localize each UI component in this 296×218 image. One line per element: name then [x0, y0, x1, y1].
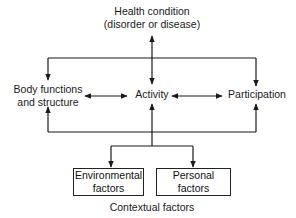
activity-node: Activity — [128, 88, 176, 101]
body-functions-line1: Body functions — [6, 83, 90, 96]
body-functions-line2: and structure — [6, 96, 90, 109]
environmental-factors-box: Environmental factors — [73, 168, 144, 196]
body-functions-node: Body functions and structure — [6, 83, 90, 109]
personal-factors-box: Personal factors — [156, 168, 231, 196]
contextual-factors-label: Contextual factors — [92, 201, 212, 214]
environmental-line2: factors — [93, 182, 125, 195]
health-condition-subtitle: (disorder or disease) — [92, 18, 212, 31]
personal-line2: factors — [178, 182, 210, 195]
health-condition-node: Health condition (disorder or disease) — [92, 5, 212, 31]
connector-lines — [0, 0, 296, 218]
participation-node: Participation — [224, 88, 290, 101]
personal-line1: Personal — [173, 169, 214, 182]
environmental-line1: Environmental — [75, 169, 142, 182]
health-condition-title: Health condition — [92, 5, 212, 18]
